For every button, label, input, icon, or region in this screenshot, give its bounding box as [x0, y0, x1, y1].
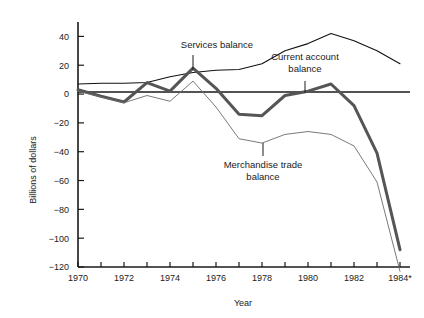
y-tick-label: 0: [64, 89, 69, 99]
x-tick-label: 1976: [206, 273, 226, 283]
annotation-label: Services balance: [181, 39, 253, 50]
x-axis-tick-labels: 19701972197419761978198019821984*: [68, 273, 412, 283]
x-tick-label: 1972: [114, 273, 134, 283]
chart-axes: [78, 22, 410, 267]
annotation-label: Current account: [271, 51, 339, 62]
annotation-label: Merchandise trade: [224, 159, 303, 170]
x-tick-label: 1978: [252, 273, 272, 283]
x-tick-label: 1982: [344, 273, 364, 283]
line-chart: 40200−20−40−60−80−100−120 19701972197419…: [0, 0, 424, 318]
x-tick-label: 1984*: [388, 273, 412, 283]
y-tick-label: −60: [54, 176, 69, 186]
y-axis-title: Billions of dollars: [28, 136, 38, 204]
chart-series-group: [78, 34, 400, 272]
x-tick-label: 1970: [68, 273, 88, 283]
y-tick-label: 40: [59, 32, 69, 42]
series-line-merchandise-trade-balance: [78, 81, 400, 271]
annotation-label: balance: [246, 171, 279, 182]
y-tick-label: −80: [54, 205, 69, 215]
chart-figure: 40200−20−40−60−80−100−120 19701972197419…: [0, 0, 424, 318]
y-axis-tick-labels: 40200−20−40−60−80−100−120: [49, 32, 69, 273]
x-axis-title: Year: [234, 298, 252, 308]
y-tick-label: −20: [54, 118, 69, 128]
x-tick-label: 1980: [298, 273, 318, 283]
series-annotations: Services balanceCurrent accountbalanceMe…: [181, 39, 339, 182]
y-tick-label: −120: [49, 262, 69, 272]
y-tick-label: 20: [59, 61, 69, 71]
x-tick-label: 1974: [160, 273, 180, 283]
annotation-label: balance: [288, 63, 321, 74]
y-tick-label: −100: [49, 234, 69, 244]
y-tick-label: −40: [54, 147, 69, 157]
